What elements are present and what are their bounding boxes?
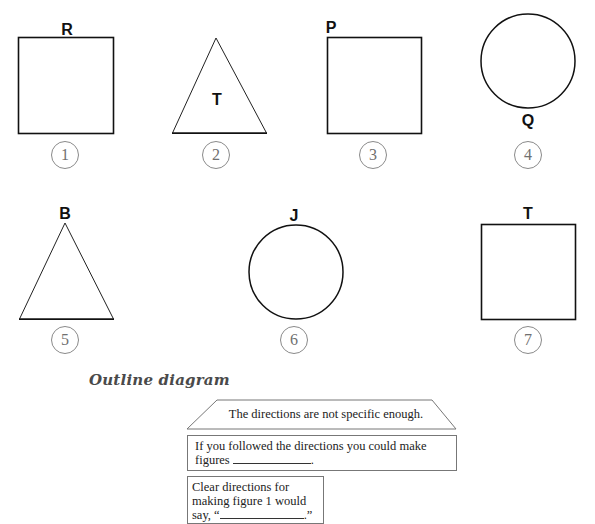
detail-1-blank[interactable] [233, 453, 311, 464]
figure-6-circle [249, 225, 343, 319]
figure-5-number: 5 [51, 326, 79, 354]
figure-5-triangle [20, 223, 114, 319]
detail-1-suffix: . [311, 453, 314, 467]
detail-box-figures: If you followed the directions you could… [187, 435, 457, 471]
detail-2-line2: making figure 1 would [192, 494, 319, 508]
figure-4-number: 4 [514, 141, 542, 169]
figure-6-number: 6 [280, 326, 308, 354]
figure-3-number: 3 [359, 141, 387, 169]
figure-2-label: T [212, 92, 222, 108]
detail-2-blank[interactable] [220, 508, 304, 519]
figure-1-square [19, 38, 114, 134]
figure-1-number: 1 [51, 141, 79, 169]
figure-1-label: R [61, 22, 73, 38]
figure-3-label: P [326, 20, 337, 36]
detail-2-suffix: .” [304, 508, 313, 522]
figure-6-label: J [290, 208, 299, 224]
figure-2-triangle [173, 38, 267, 133]
figure-4-label: Q [522, 113, 534, 129]
figure-2-number: 2 [202, 141, 230, 169]
detail-box-clear-directions: Clear directions for making figure 1 wou… [187, 476, 324, 524]
main-idea-text: The directions are not specific enough. [187, 400, 457, 429]
figure-7-square [482, 225, 576, 320]
figure-4-circle [481, 14, 575, 108]
detail-2-line1: Clear directions for [192, 480, 319, 494]
figure-5-label: B [59, 206, 71, 222]
detail-2-prefix: say, “ [192, 508, 220, 522]
outline-heading: Outline diagram [89, 371, 230, 389]
figure-7-number: 7 [514, 326, 542, 354]
figure-3-square [328, 38, 422, 134]
figure-7-label: T [523, 206, 533, 222]
